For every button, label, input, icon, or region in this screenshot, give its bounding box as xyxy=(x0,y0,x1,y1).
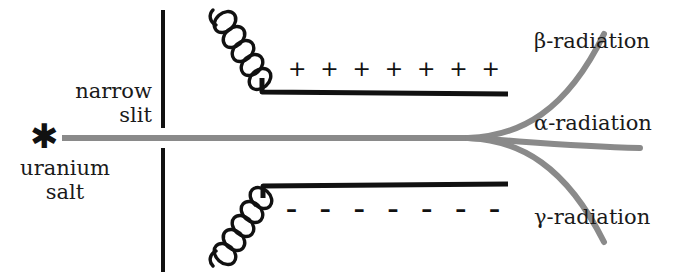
lower-plate-charges: – – – – – – – xyxy=(286,199,500,221)
charge-minus: – xyxy=(320,199,331,221)
charge-minus: – xyxy=(286,199,297,221)
beta-radiation-label: β-radiation xyxy=(534,30,650,54)
charge-minus: – xyxy=(354,199,365,221)
gamma-radiation-label: γ-radiation xyxy=(534,206,650,230)
uranium-salt-label: uraniumsalt xyxy=(4,157,126,204)
asterisk-icon: ✱ xyxy=(30,119,59,153)
charge-minus: – xyxy=(421,199,432,221)
charge-minus: – xyxy=(387,199,398,221)
narrow-slit-label: narrowslit xyxy=(75,80,152,127)
radiation-deflection-diagram: ✱ narrowslit uraniumsalt + + + + + + + –… xyxy=(0,0,675,280)
lower-capacitor-plate xyxy=(263,184,508,198)
narrow-slit-label-line1: narrow xyxy=(75,79,152,103)
charge-plus: + xyxy=(417,58,435,80)
uranium-salt-label-line2: salt xyxy=(46,180,84,204)
charge-plus: + xyxy=(482,58,500,80)
lower-coil-lead xyxy=(210,183,276,268)
alpha-radiation-label: α-radiation xyxy=(534,112,652,136)
charge-plus: + xyxy=(385,58,403,80)
charge-plus: + xyxy=(449,58,467,80)
charge-minus: – xyxy=(455,199,466,221)
charge-plus: + xyxy=(288,58,306,80)
charge-plus: + xyxy=(353,58,371,80)
upper-coil-lead xyxy=(210,7,275,93)
narrow-slit-label-line2: slit xyxy=(119,103,152,127)
charge-plus: + xyxy=(320,58,338,80)
charge-minus: – xyxy=(489,199,500,221)
upper-plate-charges: + + + + + + + xyxy=(288,58,500,80)
uranium-salt-label-line1: uranium xyxy=(20,156,110,180)
